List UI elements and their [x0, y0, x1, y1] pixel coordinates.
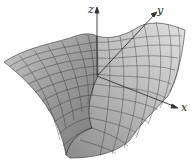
x-axis-label: x [181, 102, 187, 113]
surface-plot [0, 0, 194, 163]
y-axis-label: y [157, 5, 163, 16]
z-axis-label: z [88, 4, 94, 15]
x-axis-arrow [171, 104, 178, 108]
z-axis-arrow [95, 7, 99, 13]
